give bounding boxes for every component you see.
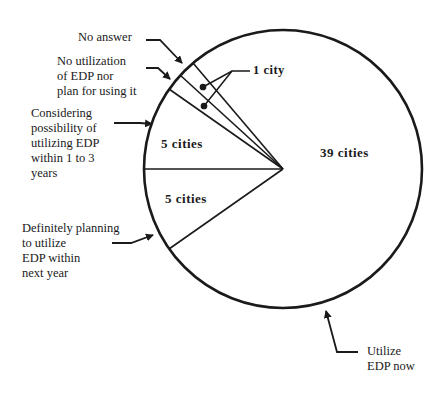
slice-label-five-upper: 5 cities <box>161 136 203 152</box>
label-no-utilization: No utilization of EDP nor plan for using… <box>57 54 137 99</box>
arrow-utilize-now <box>326 311 358 352</box>
arrow-no-utilization <box>146 68 170 79</box>
label-no-answer: No answer <box>78 30 132 45</box>
arrow-no-answer <box>146 40 182 63</box>
one-city-leaders <box>200 71 250 109</box>
label-utilize-now: Utilize EDP now <box>367 344 415 374</box>
slice-label-one-city: 1 city <box>253 63 285 78</box>
arrow-considering <box>114 123 152 124</box>
slice-dividers <box>144 63 283 249</box>
label-considering: Considering possibility of utilizing EDP… <box>31 106 99 181</box>
label-definitely: Definitely planning to utilize EDP withi… <box>22 221 120 281</box>
slice-label-thirty-nine: 39 cities <box>320 145 369 161</box>
slice-label-five-lower: 5 cities <box>165 191 207 207</box>
